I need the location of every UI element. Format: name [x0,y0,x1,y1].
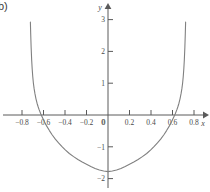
y-axis-ticks [108,20,113,179]
x-tick-label: 0.4 [146,118,156,127]
x-tick-label: −0.2 [80,118,94,127]
y-tick-label: 3 [101,15,105,24]
axes-group [3,3,209,188]
x-tick-label: 0.8 [189,118,199,127]
y-tick-label: −2 [97,174,105,183]
y-tick-label: −1 [97,143,105,152]
plot-area: −0.8 −0.6 −0.4 −0.2 0 0.2 0.4 0.6 0.8 3 … [0,0,210,192]
x-tick-label: −0.4 [58,118,72,127]
y-axis-arrow-icon [105,3,112,9]
x-tick-label: −0.8 [15,118,29,127]
y-axis-label: y [97,3,102,12]
y-tick-label: 1 [101,79,105,88]
x-tick-label: 0.2 [125,118,135,127]
y-tick-label: 0 [101,118,105,127]
y-axis-tick-labels: 3 2 1 0 −1 −2 [97,15,105,183]
y-tick-label: 2 [101,47,105,56]
x-axis-label: x [200,119,205,128]
figure-panel: b) −0.8 −0.6 −0.4 [0,0,210,192]
x-axis-arrow-icon [203,112,209,119]
